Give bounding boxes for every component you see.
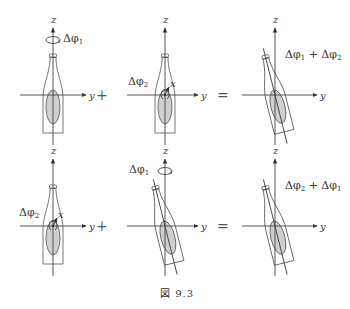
rotation-label: Δφ2 [128,75,148,89]
panel-bottom-middle: z y Δφ1 [127,145,207,277]
y-axis-label: y [200,90,207,101]
result-label: Δφ1 + Δφ2 [285,48,341,62]
rotation-label: Δφ2 [19,206,39,220]
plus-operator: + [96,218,108,234]
z-axis-label: z [50,145,57,156]
equals-operator: = [217,87,229,103]
y-axis-label: y [88,221,95,232]
z-axis-label: z [50,14,57,25]
z-axis-label: z [272,14,279,25]
panel-top-right: z y Δφ1 + Δφ2 [242,14,341,146]
panel-bottom-left: z y x Δφ2 [19,145,95,276]
z-axis-label: z [272,145,279,156]
y-axis-label: y [88,90,95,101]
rotation-composition-figure: z y Δφ1 + z y x Δφ2 = z y Δφ1 + [0,0,350,309]
x-axis-label: x [58,209,64,220]
y-axis-label: y [319,221,326,232]
panel-top-middle: z y x Δφ2 [127,14,207,145]
equals-operator: = [217,218,229,234]
z-axis-label: z [162,145,169,156]
x-axis-label: x [170,78,176,89]
y-axis-label: y [319,90,326,101]
figure-caption: 図 9.3 [160,288,194,299]
plus-operator: + [96,87,108,103]
panel-bottom-right: z y Δφ2 + Δφ1 [242,145,341,277]
rotation-label: Δφ1 [63,32,83,46]
result-label: Δφ2 + Δφ1 [285,179,341,193]
z-axis-label: z [162,14,169,25]
rotation-label: Δφ1 [129,163,149,177]
panel-top-left: z y Δφ1 [20,14,95,145]
y-axis-label: y [200,221,207,232]
